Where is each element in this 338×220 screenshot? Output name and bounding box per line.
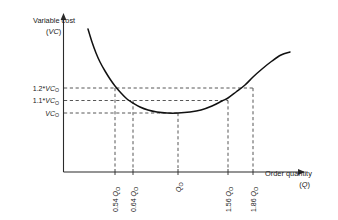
axes-group xyxy=(61,13,305,175)
x-axis-title-line1: Order quantity xyxy=(265,169,312,178)
y-axis-title-line2: (VC) xyxy=(46,27,61,36)
x-tick-label-186-q: 1.86 QO xyxy=(250,187,259,212)
x-tick-subscript-156: O xyxy=(228,187,234,191)
vertical-guides-group xyxy=(115,88,253,168)
x-tick-coef-156: 1.56 xyxy=(225,198,232,212)
x-tick-coef-064: 0.64 xyxy=(130,198,137,212)
y-axis-title-symbol: VC xyxy=(48,27,59,36)
x-tick-label-054-q: 0.54 QO xyxy=(112,187,121,212)
x-tick-label-064-q: 0.64 QO xyxy=(130,187,139,212)
x-tick-labels-group: 0.54 QO 0.64 QO QO 1.56 QO 1.86 QO xyxy=(112,182,259,212)
y-tick-label-1-1-vc: 1.1*VCO xyxy=(33,97,59,106)
y-tick-subscript-1-2: O xyxy=(55,87,59,93)
x-tick-label-156-q: 1.56 QO xyxy=(225,187,234,212)
x-axis-title-line2: (Q) xyxy=(299,180,310,189)
x-tick-coef-186: 1.86 xyxy=(250,198,257,212)
y-axis-title-line1: Variable cost xyxy=(33,16,75,25)
x-tick-subscript-064: O xyxy=(133,187,139,191)
y-tick-label-vc: VCO xyxy=(45,110,59,119)
x-tick-subscript-186: O xyxy=(253,187,259,191)
x-axis-title-paren-close: ) xyxy=(308,180,310,189)
x-tick-coef-054: 0.54 xyxy=(112,198,119,212)
y-tick-subscript-1-0: O xyxy=(55,112,59,118)
y-axis-title-paren-close: ) xyxy=(59,27,61,36)
y-tick-label-1-2-vc: 1.2*VCO xyxy=(33,85,59,94)
y-axis-title: Variable cost (VC) xyxy=(33,16,75,36)
y-tick-coef-1-1: 1.1* xyxy=(33,97,46,104)
x-tick-subscript-100: O xyxy=(178,182,184,186)
y-tick-coef-1-2: 1.2* xyxy=(33,85,46,92)
x-axis-title: Order quantity (Q) xyxy=(265,169,312,189)
x-tick-label-q: QO xyxy=(175,182,184,192)
y-tick-labels-group: 1.2*VCO 1.1*VCO VCO xyxy=(33,85,59,119)
y-tick-subscript-1-1: O xyxy=(55,100,59,106)
x-tick-subscript-054: O xyxy=(115,187,121,191)
variable-cost-chart: Variable cost (VC) Order quantity (Q) 1.… xyxy=(0,0,338,220)
chart-figure: Variable cost (VC) Order quantity (Q) 1.… xyxy=(0,0,338,220)
